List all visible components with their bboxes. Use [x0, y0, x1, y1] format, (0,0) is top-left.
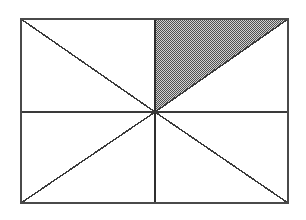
figure-root: Rectangle divided by midlines and diagon… — [0, 0, 306, 220]
geometry-canvas — [0, 0, 306, 220]
